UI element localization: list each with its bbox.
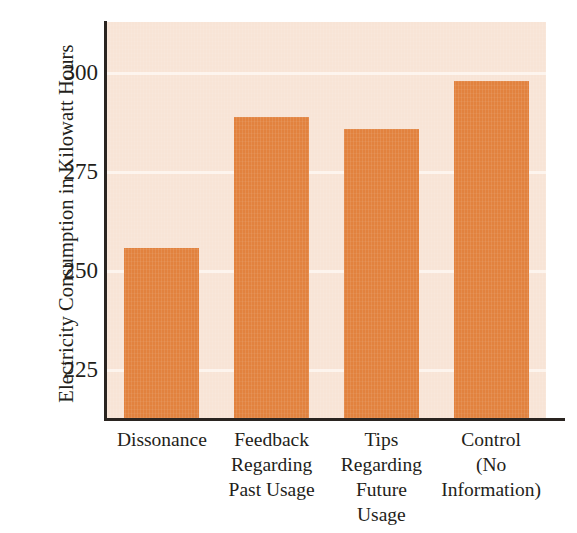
gridline-300 (107, 72, 546, 75)
x-label-tips-regarding-future-usage: TipsRegardingFutureUsage (327, 428, 437, 533)
x-label-line: Regarding (328, 453, 436, 478)
bar-chart-figure: Electricity Consumption in Kilowatt Hour… (0, 0, 577, 533)
x-label-line: (No (437, 453, 545, 478)
x-label-line: Regarding (218, 453, 326, 478)
x-label-line: Control (437, 428, 545, 453)
bar-tips-regarding-future-usage (344, 129, 419, 418)
bar-dissonance (124, 248, 199, 418)
x-label-line: Feedback (218, 428, 326, 453)
x-label-line: Past Usage (218, 478, 326, 503)
x-label-line: Dissonance (108, 428, 216, 453)
y-tick-label-300: 300 (36, 61, 98, 84)
y-tick-label-225: 225 (36, 358, 98, 381)
y-axis-tick-labels: 300 275 250 225 (30, 0, 98, 533)
y-tick-label-250: 250 (36, 259, 98, 282)
x-label-line: Future (328, 478, 436, 503)
x-axis-line (104, 418, 565, 421)
x-axis-category-labels: Dissonance FeedbackRegardingPast Usage T… (107, 428, 546, 533)
x-label-line: Information) (437, 478, 545, 503)
bar-control-no-information (454, 81, 529, 418)
x-label-control-no-information: Control(NoInformation) (436, 428, 546, 533)
x-label-line: Tips (328, 428, 436, 453)
x-label-feedback-regarding-past-usage: FeedbackRegardingPast Usage (217, 428, 327, 533)
y-axis-line (104, 21, 107, 419)
x-label-dissonance: Dissonance (107, 428, 217, 533)
plot-area (107, 22, 546, 418)
x-label-line: Usage (328, 503, 436, 528)
y-tick-label-275: 275 (36, 160, 98, 183)
bar-feedback-regarding-past-usage (234, 117, 309, 418)
